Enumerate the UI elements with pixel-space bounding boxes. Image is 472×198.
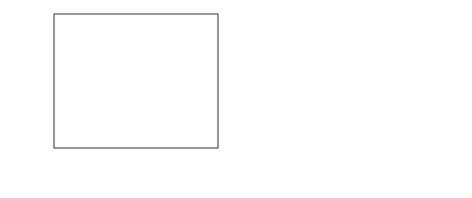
panel-b [236, 0, 472, 198]
plot-frame [54, 14, 218, 148]
figure-container [0, 0, 472, 198]
panel-a-plot [0, 0, 236, 198]
panel-a [0, 0, 236, 198]
panel-b-plot [236, 0, 472, 198]
panel-a-axes [54, 14, 218, 148]
